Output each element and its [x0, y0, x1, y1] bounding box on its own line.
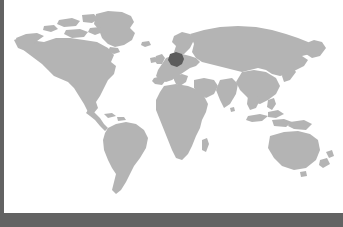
- region-asia-russia: [190, 26, 314, 76]
- world-map-graphic[interactable]: [4, 0, 343, 213]
- region-tasmania: [300, 171, 307, 177]
- world-map-canvas[interactable]: [4, 0, 343, 213]
- region-kamchatka: [304, 40, 326, 58]
- region-indonesia-b: [268, 110, 284, 118]
- region-philippines: [267, 98, 276, 110]
- region-sri-lanka: [230, 107, 235, 112]
- region-ireland: [150, 57, 156, 63]
- region-iceland: [141, 41, 151, 47]
- region-madagascar: [202, 138, 209, 152]
- bottom-border-rail: [0, 213, 343, 227]
- region-india: [216, 78, 238, 108]
- world-map-screenshot: [0, 0, 343, 227]
- region-south-america: [103, 122, 148, 194]
- region-central-america: [86, 110, 108, 131]
- region-caribbean-b: [117, 117, 126, 121]
- region-caribbean-a: [104, 113, 116, 118]
- region-arctic-islands-a: [57, 18, 80, 27]
- region-arctic-islands-c: [64, 29, 88, 38]
- region-africa: [156, 84, 208, 160]
- region-australia: [268, 131, 320, 170]
- region-new-zealand-south: [319, 158, 330, 168]
- region-arctic-islands-d: [43, 25, 58, 32]
- region-indonesia-a: [246, 114, 268, 122]
- region-new-guinea: [288, 120, 312, 130]
- region-new-zealand-north: [326, 150, 334, 158]
